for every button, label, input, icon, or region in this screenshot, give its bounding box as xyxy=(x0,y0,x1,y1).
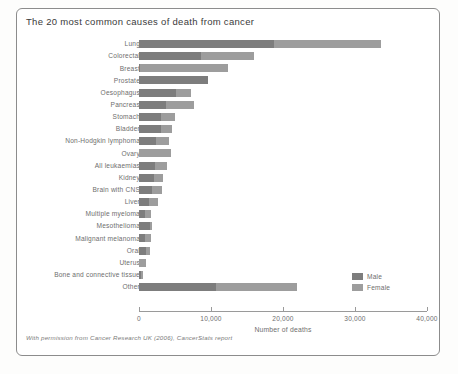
bar-segment-female xyxy=(145,234,151,242)
category-label: Bone and connective tissue xyxy=(54,271,140,279)
bar-row xyxy=(139,247,427,255)
bar-segment-male xyxy=(139,247,146,255)
category-label: Multiple myeloma xyxy=(85,210,140,218)
bar-segment-male xyxy=(139,40,274,48)
x-axis-tick-label: 40,000 xyxy=(416,315,437,322)
bar-segment-female xyxy=(201,52,254,60)
bar-segment-male xyxy=(139,101,166,109)
x-axis-tick xyxy=(283,307,284,311)
category-label: Stomach xyxy=(113,113,140,121)
bar-row xyxy=(139,149,427,157)
bar-segment-male xyxy=(139,162,155,170)
bar-segment-female xyxy=(139,149,171,157)
category-label: Pancreas xyxy=(111,101,140,109)
bar-segment-male xyxy=(139,137,156,145)
chart-page: The 20 most common causes of death from … xyxy=(0,0,458,374)
bar-row xyxy=(139,259,427,267)
category-label: Brain with CNS xyxy=(92,186,140,194)
category-label: Lung xyxy=(125,40,140,48)
bar-segment-female xyxy=(145,210,151,218)
legend-label-male: Male xyxy=(367,273,382,280)
bar-segment-female xyxy=(161,125,173,133)
bar-row xyxy=(139,125,427,133)
bar-row xyxy=(139,40,427,48)
bar-row xyxy=(139,198,427,206)
bar-segment-female xyxy=(156,137,170,145)
bar-segment-female xyxy=(176,89,191,97)
bar-segment-male xyxy=(139,125,161,133)
x-axis-tick xyxy=(211,307,212,311)
x-axis-tick-label: 20,000 xyxy=(272,315,293,322)
bar-segment-female xyxy=(150,222,152,230)
category-label: All leukaemias xyxy=(95,162,140,170)
bar-segment-female xyxy=(140,64,229,72)
category-label: Uterus xyxy=(119,259,140,267)
x-axis-line xyxy=(139,311,427,312)
bar-row xyxy=(139,174,427,182)
x-axis-tick-label: 0 xyxy=(137,315,141,322)
plot-area: LungColorectalBreastProstateOesophagusPa… xyxy=(0,0,458,374)
legend-swatch-male xyxy=(352,273,363,280)
bar-segment-female xyxy=(149,198,158,206)
bar-segment-female xyxy=(152,186,162,194)
bar-row xyxy=(139,137,427,145)
bar-row xyxy=(139,64,427,72)
category-label: Ovary xyxy=(121,150,140,158)
legend-swatch-female xyxy=(352,284,363,291)
bar-segment-male xyxy=(139,89,176,97)
x-axis-tick-label: 10,000 xyxy=(200,315,221,322)
x-axis-tick xyxy=(355,307,356,311)
bar-segment-female xyxy=(274,40,381,48)
bar-segment-male xyxy=(139,198,149,206)
bar-row xyxy=(139,101,427,109)
category-label: Liver xyxy=(125,198,140,206)
category-label: Oral xyxy=(127,247,140,255)
bar-row xyxy=(139,89,427,97)
bar-segment-male xyxy=(139,174,154,182)
x-axis-tick xyxy=(139,307,140,311)
bar-segment-male xyxy=(139,283,216,291)
bar-segment-female xyxy=(155,162,167,170)
x-axis-title: Number of deaths xyxy=(254,326,311,333)
legend-label-female: Female xyxy=(367,284,390,291)
x-axis-tick-label: 30,000 xyxy=(344,315,365,322)
bar-segment-female xyxy=(154,174,163,182)
bar-row xyxy=(139,52,427,60)
bar-segment-female xyxy=(146,247,150,255)
category-label: Bladder xyxy=(116,125,140,133)
bar-segment-female xyxy=(161,113,175,121)
category-label: Kidney xyxy=(119,174,140,182)
category-label: Non-Hodgkin lymphoma xyxy=(65,137,140,145)
legend-item-male: Male xyxy=(352,272,390,281)
category-label: Other xyxy=(123,283,141,291)
bar-segment-female xyxy=(139,259,146,267)
bar-segment-male xyxy=(139,52,201,60)
category-label: Oesophagus xyxy=(101,89,140,97)
bar-segment-male xyxy=(139,113,161,121)
legend: Male Female xyxy=(352,272,390,294)
bar-segment-male xyxy=(139,186,152,194)
bar-segment-female xyxy=(216,283,297,291)
bar-row xyxy=(139,76,427,84)
bar-segment-male xyxy=(139,76,208,84)
bar-row xyxy=(139,210,427,218)
bar-segment-female xyxy=(166,101,194,109)
bar-row xyxy=(139,222,427,230)
category-label: Colorectal xyxy=(108,52,140,60)
x-axis-tick xyxy=(427,307,428,311)
bar-row xyxy=(139,113,427,121)
source-caption: With permission from Cancer Research UK … xyxy=(26,334,232,341)
bar-row xyxy=(139,186,427,194)
bar-row xyxy=(139,234,427,242)
category-label: Malignant melanoma xyxy=(75,235,140,243)
category-label: Prostate xyxy=(114,77,140,85)
category-label: Breast xyxy=(120,65,140,73)
category-label: Mesothelioma xyxy=(97,222,140,230)
bar-segment-male xyxy=(139,222,150,230)
legend-item-female: Female xyxy=(352,283,390,292)
bar-row xyxy=(139,162,427,170)
bar-segment-female xyxy=(141,271,143,279)
